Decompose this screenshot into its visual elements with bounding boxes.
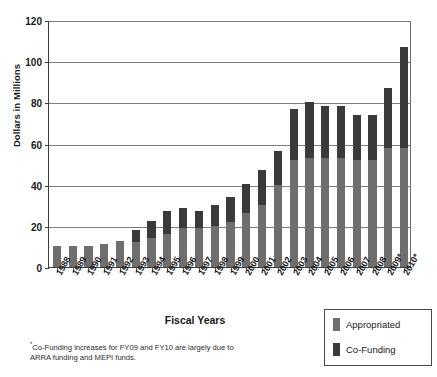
bar-segment-co-funding xyxy=(321,106,329,157)
bar-group xyxy=(274,20,282,267)
bar-group xyxy=(53,20,61,267)
bars-layer xyxy=(49,21,411,267)
y-axis-title: Dollars in Millions xyxy=(11,46,22,166)
legend-label-appropriated: Appropriated xyxy=(346,319,400,330)
legend-label-co-funding: Co-Funding xyxy=(346,344,396,355)
plot-area: 020406080100120 xyxy=(48,21,411,268)
legend-item-appropriated: Appropriated xyxy=(333,318,400,331)
bar-group xyxy=(211,20,219,267)
footnote-text: Co-Funding increases for FY09 and FY10 a… xyxy=(30,343,234,362)
bar-segment-co-funding xyxy=(147,221,155,238)
bar-group xyxy=(163,20,171,267)
bar-segment-co-funding xyxy=(211,205,219,226)
y-axis-tick-label: 80 xyxy=(31,98,42,109)
bar-segment-co-funding xyxy=(163,211,171,234)
bar-segment-co-funding xyxy=(337,106,345,157)
bar-group xyxy=(132,20,140,267)
bar-segment-appropriated xyxy=(274,185,282,267)
bar-group xyxy=(384,20,392,267)
stacked-bar-chart: Dollars in Millions 020406080100120 1988… xyxy=(0,0,437,377)
bar-group xyxy=(179,20,187,267)
bar-segment-co-funding xyxy=(353,115,361,160)
bar-segment-co-funding xyxy=(226,197,234,222)
bar-segment-co-funding xyxy=(400,47,408,148)
x-axis-title: Fiscal Years xyxy=(130,314,260,326)
bar-segment-appropriated xyxy=(305,158,313,267)
bar-group xyxy=(147,20,155,267)
bar-segment-appropriated xyxy=(290,160,298,267)
chart-legend: Appropriated Co-Funding xyxy=(324,309,432,366)
legend-item-co-funding: Co-Funding xyxy=(333,343,396,356)
chart-footnote: *Co-Funding increases for FY09 and FY10 … xyxy=(30,340,235,363)
bar-group xyxy=(226,20,234,267)
bar-group xyxy=(353,20,361,267)
y-axis-tick-label: 40 xyxy=(31,180,42,191)
bar-group xyxy=(242,20,250,267)
bar-segment-appropriated xyxy=(353,160,361,267)
bar-group xyxy=(290,20,298,267)
bar-group xyxy=(100,20,108,267)
bar-group xyxy=(305,20,313,267)
legend-swatch-appropriated xyxy=(333,318,340,331)
bar-group xyxy=(195,20,203,267)
y-axis-tick-label: 100 xyxy=(25,57,42,68)
y-axis-tick-label: 60 xyxy=(31,139,42,150)
bar-segment-co-funding xyxy=(195,211,203,227)
bar-segment-co-funding xyxy=(132,230,140,242)
bar-segment-co-funding xyxy=(290,109,298,160)
bar-segment-co-funding xyxy=(274,151,282,185)
bar-segment-appropriated xyxy=(337,158,345,267)
bar-group xyxy=(337,20,345,267)
bar-segment-co-funding xyxy=(368,115,376,160)
bar-segment-appropriated xyxy=(321,158,329,267)
bar-segment-co-funding xyxy=(305,102,313,158)
bar-group xyxy=(368,20,376,267)
bar-segment-co-funding xyxy=(384,88,392,148)
bar-segment-co-funding xyxy=(258,170,266,205)
bar-group xyxy=(84,20,92,267)
y-axis-tick-label: 120 xyxy=(25,16,42,27)
bar-segment-co-funding xyxy=(242,184,250,214)
bar-segment-co-funding xyxy=(179,208,187,228)
bar-segment-appropriated xyxy=(368,160,376,267)
bar-group xyxy=(258,20,266,267)
y-axis-tick-label: 0 xyxy=(36,263,42,274)
bar-group xyxy=(321,20,329,267)
y-axis-tick-label: 20 xyxy=(31,221,42,232)
legend-swatch-co-funding xyxy=(333,343,340,356)
y-axis-tick-mark xyxy=(45,268,49,269)
bar-segment-appropriated xyxy=(400,148,408,267)
bar-group xyxy=(69,20,77,267)
bar-segment-appropriated xyxy=(384,148,392,267)
bar-group xyxy=(116,20,124,267)
bar-group xyxy=(400,20,408,267)
